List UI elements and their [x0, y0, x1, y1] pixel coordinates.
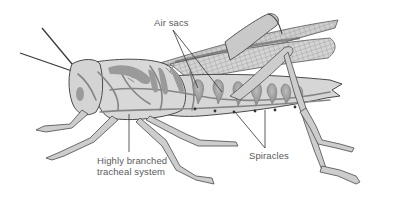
label-air-sacs: Air sacs: [154, 17, 189, 28]
label-tracheal-line2: tracheal system: [97, 166, 167, 177]
label-tracheal-system: Highly branched tracheal system: [97, 155, 167, 177]
label-tracheal-line1: Highly branched: [97, 155, 167, 166]
grasshopper-illustration: [0, 0, 408, 199]
label-spiracles: Spiracles: [249, 150, 289, 161]
antennae: [20, 28, 72, 71]
